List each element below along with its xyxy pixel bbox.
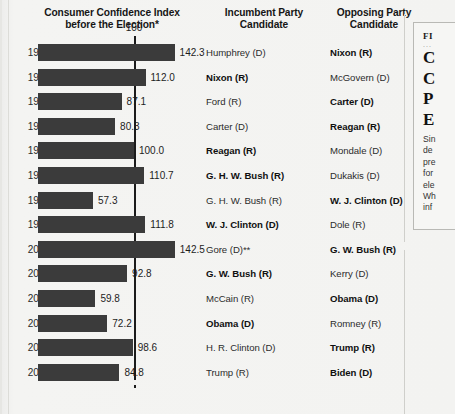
table-row: 1972112.0Nixon (R)McGovern (D)	[0, 66, 455, 90]
opposing-candidate-name: Dukakis (D)	[330, 170, 380, 181]
panel-body-text: SindepreforeleWhinf	[423, 134, 455, 214]
incumbent-candidate-name: Gore (D)**	[206, 244, 250, 255]
confidence-index-bar	[38, 44, 175, 61]
bar-value-label: 100.0	[139, 145, 164, 156]
reference-line-label: 100	[118, 22, 150, 33]
incumbent-heading-line-1: Incumbent Party	[225, 7, 303, 18]
table-row: 198080.3Carter (D)Reagan (R)	[0, 115, 455, 139]
incumbent-column-heading: Incumbent Party Candidate	[206, 7, 322, 32]
incumbent-candidate-name: Reagan (R)	[206, 145, 256, 156]
opposing-candidate-name: Obama (D)	[330, 293, 378, 304]
table-row: 200859.8McCain (R)Obama (D)	[0, 287, 455, 311]
bar-value-label: 57.3	[98, 195, 117, 206]
incumbent-candidate-name: G. H. W. Bush (R)	[206, 195, 282, 206]
panel-body-line: Wh	[423, 191, 455, 202]
table-row: 1988110.7G. H. W. Bush (R)Dukakis (D)	[0, 164, 455, 188]
panel-body-line: de	[423, 145, 455, 156]
confidence-index-bar	[38, 241, 175, 258]
table-row: 202084.8Trump (R)Biden (D)	[0, 361, 455, 385]
opposing-candidate-name: Carter (D)	[330, 96, 374, 107]
panel-divider-upper	[404, 14, 405, 242]
incumbent-candidate-name: Trump (R)	[206, 367, 249, 378]
opposing-candidate-name: Dole (R)	[330, 219, 365, 230]
opposing-candidate-name: Biden (D)	[330, 367, 372, 378]
bar-value-label: 111.8	[150, 219, 174, 230]
opposing-heading-line-1: Opposing Party	[337, 7, 411, 18]
panel-title: CCPE	[423, 49, 455, 129]
opposing-candidate-name: Reagan (R)	[330, 121, 380, 132]
confidence-index-bar	[38, 216, 145, 233]
infographic-page: Consumer Confidence Index before the Ele…	[0, 0, 455, 414]
confidence-index-bar	[38, 315, 107, 332]
table-row: 1984100.0Reagan (R)Mondale (D)	[0, 139, 455, 163]
panel-dot-rule: ...	[423, 42, 455, 47]
incumbent-candidate-name: G. H. W. Bush (R)	[206, 170, 284, 181]
opposing-candidate-name: Mondale (D)	[330, 145, 382, 156]
opposing-candidate-name: Kerry (D)	[330, 268, 368, 279]
bar-value-label: 87.1	[127, 96, 146, 107]
confidence-index-bar	[38, 118, 115, 135]
confidence-index-bar	[38, 265, 127, 282]
panel-title-line: C	[423, 70, 455, 89]
confidence-index-bar	[38, 192, 93, 209]
panel-body-line: inf	[423, 202, 455, 213]
table-row: 199257.3G. H. W. Bush (R)W. J. Clinton (…	[0, 189, 455, 213]
panel-body-line: Sin	[423, 134, 455, 145]
table-row: 1968142.3Humphrey (D)Nixon (R)	[0, 41, 455, 65]
incumbent-candidate-name: Humphrey (D)	[206, 47, 266, 58]
incumbent-candidate-name: Nixon (R)	[206, 72, 248, 83]
table-row: 200492.8G. W. Bush (R)Kerry (D)	[0, 262, 455, 286]
bar-value-label: 110.7	[149, 170, 173, 181]
panel-kicker: FI	[423, 31, 455, 41]
confidence-index-bar	[38, 339, 133, 356]
bar-value-label: 142.3	[180, 47, 205, 58]
incumbent-candidate-name: H. R. Clinton (D)	[206, 342, 276, 353]
opposing-candidate-name: G. W. Bush (R)	[330, 244, 396, 255]
bar-value-label: 80.3	[120, 121, 139, 132]
confidence-index-bar	[38, 93, 122, 110]
confidence-index-bar	[38, 142, 134, 159]
opposing-candidate-name: W. J. Clinton (D)	[330, 195, 403, 206]
incumbent-candidate-name: Ford (R)	[206, 96, 241, 107]
bar-value-label: 72.2	[112, 318, 131, 329]
bar-value-label: 59.8	[100, 293, 119, 304]
chart-column-heading: Consumer Confidence Index before the Ele…	[14, 7, 210, 32]
panel-divider-lower	[404, 250, 405, 414]
opposing-candidate-name: Nixon (R)	[330, 47, 372, 58]
panel-title-line: E	[423, 111, 455, 130]
side-article-panel: FI ... CCPE SindepreforeleWhinf	[413, 22, 455, 230]
panel-title-line: C	[423, 49, 455, 68]
chart-heading-line-1: Consumer Confidence Index	[44, 7, 180, 18]
table-row: 201698.6H. R. Clinton (D)Trump (R)	[0, 336, 455, 360]
opposing-candidate-name: Trump (R)	[330, 342, 375, 353]
incumbent-candidate-name: McCain (R)	[206, 293, 254, 304]
panel-body-line: ele	[423, 180, 455, 191]
incumbent-candidate-name: G. W. Bush (R)	[206, 268, 272, 279]
incumbent-candidate-name: Carter (D)	[206, 121, 248, 132]
incumbent-heading-line-2: Candidate	[240, 19, 288, 30]
panel-body-line: pre	[423, 157, 455, 168]
table-row: 2000142.5Gore (D)**G. W. Bush (R)	[0, 238, 455, 262]
bar-value-label: 142.5	[180, 244, 205, 255]
incumbent-candidate-name: W. J. Clinton (D)	[206, 219, 279, 230]
table-row: 201272.2Obama (D)Romney (R)	[0, 312, 455, 336]
panel-body-line: for	[423, 168, 455, 179]
panel-title-line: P	[423, 90, 455, 109]
bar-value-label: 92.8	[132, 268, 151, 279]
bar-value-label: 84.8	[124, 367, 143, 378]
confidence-index-bar	[38, 364, 119, 381]
table-row: 1996111.8W. J. Clinton (D)Dole (R)	[0, 213, 455, 237]
confidence-index-bar	[38, 167, 144, 184]
incumbent-candidate-name: Obama (D)	[206, 318, 254, 329]
opposing-heading-line-2: Candidate	[350, 19, 398, 30]
table-row: 197687.1Ford (R)Carter (D)	[0, 90, 455, 114]
confidence-index-bar	[38, 69, 146, 86]
bar-value-label: 98.6	[138, 342, 157, 353]
opposing-candidate-name: Romney (R)	[330, 318, 381, 329]
opposing-candidate-name: McGovern (D)	[330, 72, 390, 83]
bar-value-label: 112.0	[151, 72, 175, 83]
confidence-index-bar	[38, 290, 95, 307]
